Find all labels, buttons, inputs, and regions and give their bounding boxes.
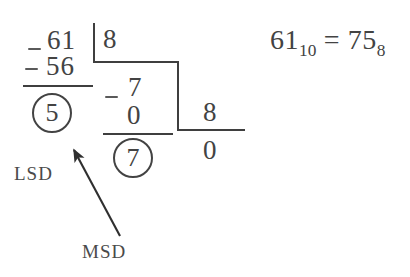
first-remainder-circled: 5 <box>32 93 72 133</box>
equation-octal-value: 75 <box>348 24 377 55</box>
conversion-diagram-canvas: 61 56 5 8 7 0 7 8 0 LSD MSD 6110 = 758 <box>0 0 410 277</box>
equation-octal-base: 8 <box>377 41 386 60</box>
msd-label: MSD <box>82 241 126 263</box>
second-minus-sign-left <box>25 68 38 70</box>
first-bracket-vertical <box>93 23 95 63</box>
equation-decimal-base: 10 <box>299 41 316 60</box>
final-quotient-zero: 0 <box>203 137 218 164</box>
second-subtrahend: 0 <box>127 102 142 129</box>
second-remainder-circled: 7 <box>113 138 153 178</box>
second-subtraction-rule <box>103 133 173 135</box>
first-divisor: 8 <box>103 26 118 53</box>
first-bracket-horizontal <box>93 61 179 63</box>
second-minus-sign <box>105 96 118 98</box>
first-subtrahend: 56 <box>46 53 75 80</box>
equation-equals-sign: = <box>324 24 340 55</box>
second-bracket-vertical <box>177 61 179 131</box>
first-dividend: 61 <box>47 27 76 54</box>
first-subtraction-rule <box>23 85 93 87</box>
second-dividend: 7 <box>128 74 143 101</box>
second-divisor: 8 <box>203 99 218 126</box>
lsd-label: LSD <box>14 163 53 185</box>
equation-decimal-value: 61 <box>270 24 299 55</box>
first-minus-sign <box>28 48 41 50</box>
result-equation: 6110 = 758 <box>270 24 385 61</box>
second-bracket-horizontal <box>177 129 245 131</box>
